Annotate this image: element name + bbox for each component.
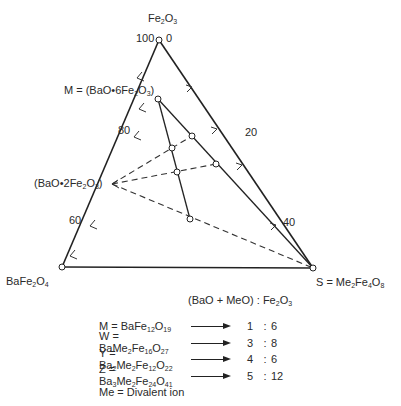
ratio-b: 12 <box>271 370 291 382</box>
arrow-icon <box>191 354 231 364</box>
right-tick-40: 40 <box>283 216 295 228</box>
vertex-bafe2o4 <box>59 264 65 270</box>
tick-arrow <box>134 131 141 140</box>
point-label-bao2: (BaO•2Fe2O3) <box>34 177 103 190</box>
ratio-sep: : <box>259 337 271 349</box>
vertex-s <box>310 265 316 271</box>
ratio-a: 4 <box>241 353 259 365</box>
point-interior <box>189 133 195 139</box>
left-edge <box>62 40 159 267</box>
ratio-sep: : <box>259 320 271 332</box>
arrow-icon <box>191 338 231 348</box>
point-z <box>187 216 193 222</box>
ratio-a: 5 <box>241 370 259 382</box>
legend: M = BaFe12O19 1:6 W = BaMe2Fe16O27 3:8 Y… <box>99 318 301 401</box>
ratio-b: 6 <box>271 353 291 365</box>
tick-arrow <box>186 85 192 92</box>
ratio-a: 3 <box>241 337 259 349</box>
legend-note-text: Me = Divalent ion <box>99 386 184 398</box>
right-tick-0: 0 <box>166 32 172 44</box>
ratio-b: 6 <box>271 320 291 332</box>
point-label-m: M = (BaO•6Fe2O3) <box>64 84 154 97</box>
bottom-edge <box>62 267 313 268</box>
vertex-label-top: Fe2O3 <box>148 12 177 25</box>
legend-formula: Z = Ba3Me2Fe24O41 <box>99 363 191 388</box>
tick-arrow <box>90 220 97 229</box>
ratio-sep: : <box>259 353 271 365</box>
right-tick-20: 20 <box>245 126 257 138</box>
left-tick-60: 60 <box>69 214 81 226</box>
dashed-line-2 <box>112 164 216 184</box>
left-tick-80: 80 <box>118 124 130 136</box>
point-m <box>155 96 161 102</box>
vertex-fe2o3 <box>156 37 162 43</box>
legend-header: (BaO + MeO) : Fe2O3 <box>188 294 292 307</box>
point-y <box>174 169 180 175</box>
vertex-label-left: BaFe2O4 <box>6 275 49 288</box>
arrow-icon <box>191 321 231 331</box>
ratio-sep: : <box>259 370 271 382</box>
tick-arrow <box>211 127 217 134</box>
legend-row-z: Z = Ba3Me2Fe24O41 5:12 <box>99 368 301 385</box>
point-interior <box>213 161 219 167</box>
tick-arrow <box>270 223 276 230</box>
left-tick-100: 100 <box>136 32 154 44</box>
point-w <box>169 145 175 151</box>
arrow-icon <box>191 371 231 381</box>
right-edge <box>159 40 313 268</box>
vertex-label-right: S = Me2Fe4O8 <box>316 276 384 289</box>
legend-note: Me = Divalent ion <box>99 384 301 401</box>
ratio-b: 8 <box>271 337 291 349</box>
ratio-a: 1 <box>241 320 259 332</box>
tie-line-m-s <box>158 99 313 268</box>
